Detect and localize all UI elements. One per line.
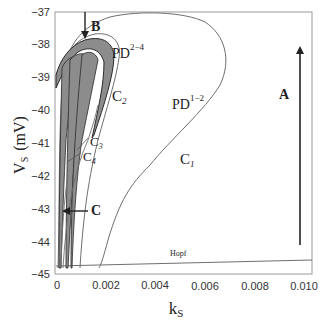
y-tick-label: −37 [31,6,50,18]
y-tick-label: −43 [31,203,50,215]
y-tick-label: −41 [31,137,50,149]
y-tick-label: −42 [31,170,50,182]
label-arrow-c: C [91,203,101,218]
x-tick-label: 0.002 [92,279,120,291]
y-tick-label: −38 [31,38,50,50]
label-pd-2-4: PD2−4 [112,42,144,61]
y-tick-label: −45 [31,268,50,280]
label-c4: C4 [83,149,96,166]
label-hopf: Hopf [170,249,187,258]
y-axis-title: VS(mV) [11,116,30,174]
label-c2: C2 [112,88,127,106]
bifurcation-chart: −37 −38 −39 −40 −41 −42 −43 −44 −45 0 0.… [0,0,324,325]
y-tick-label: −44 [31,236,50,248]
hopf-curve [56,260,312,266]
x-tick-label: 0.010 [290,280,318,292]
label-pd-1-2: PD1−2 [172,93,204,112]
label-arrow-b: B [91,19,100,34]
x-tick-label: 0.008 [241,280,269,292]
x-tick-label: 0 [54,279,60,291]
x-axis-ticks: 0 0.002 0.004 0.006 0.008 0.010 [54,279,318,292]
label-c3: C3 [90,134,103,151]
label-arrow-a: A [279,87,290,102]
x-tick-label: 0.006 [191,280,219,292]
y-tick-label: −40 [31,104,50,116]
y-tick-label: −39 [31,71,50,83]
y-axis-ticks: −37 −38 −39 −40 −41 −42 −43 −44 −45 [31,6,50,280]
x-tick-label: 0.004 [141,279,169,291]
label-c1: C1 [180,151,195,169]
x-axis-title: kS [169,299,184,319]
